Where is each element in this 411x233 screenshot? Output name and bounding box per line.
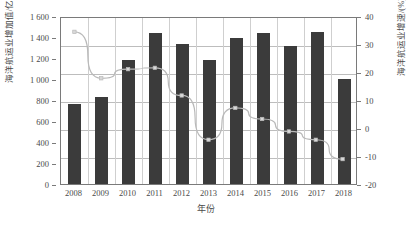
line-marker <box>73 30 76 33</box>
y-axis-right-tick-label: 40 <box>365 12 374 22</box>
y-axis-left-tick-label: 400 <box>36 138 49 148</box>
y-axis-right-tick-label: 20 <box>365 68 374 78</box>
y-axis-right-tick-label: -20 <box>365 180 376 190</box>
y-axis-left-tick-label: 200 <box>36 159 49 169</box>
line-marker <box>100 77 103 80</box>
y-axis-left-tick-label: 1 000 <box>30 75 49 85</box>
y-axis-right-tick-label: 10 <box>365 96 374 106</box>
y-axis-right-title: 海洋航运业增速/(%) <box>394 0 406 107</box>
x-axis-title: 年份 <box>0 202 411 215</box>
x-axis-tick-label: 2015 <box>254 188 271 198</box>
y-axis-left-tick-mark <box>52 122 56 123</box>
line-marker <box>314 138 317 141</box>
y-axis-left-tick-label: 0 <box>45 180 49 190</box>
y-axis-left-tick-mark <box>52 38 56 39</box>
y-axis-left-tick-mark <box>52 101 56 102</box>
y-axis-left-tick-mark <box>52 185 56 186</box>
line-marker <box>287 130 290 133</box>
line-marker <box>153 66 156 69</box>
y-axis-left-tick-mark <box>52 59 56 60</box>
x-axis-tick-label: 2011 <box>146 188 163 198</box>
y-axis-right-tick-mark <box>357 157 361 158</box>
line-series <box>61 18 356 184</box>
y-axis-left-tick-label: 800 <box>36 96 49 106</box>
y-axis-left-tick-label: 1 200 <box>30 54 49 64</box>
x-axis-ticks: 2008200920102011201220132014201520162017… <box>60 188 357 202</box>
line-marker <box>234 106 237 109</box>
y-axis-left-tick-label: 600 <box>36 117 49 127</box>
y-axis-right-tick-label: 30 <box>365 40 374 50</box>
x-axis-tick-label: 2016 <box>281 188 298 198</box>
y-axis-left-tick-mark <box>52 80 56 81</box>
x-axis-tick-label: 2009 <box>92 188 109 198</box>
y-axis-left-tick-label: 1 600 <box>30 12 49 22</box>
y-axis-left-tick-mark <box>52 164 56 165</box>
x-axis-tick-label: 2018 <box>335 188 352 198</box>
y-axis-right-tick-mark <box>357 129 361 130</box>
y-axis-right-tick-mark <box>357 45 361 46</box>
line-marker <box>126 68 129 71</box>
x-axis-tick-label: 2014 <box>227 188 244 198</box>
y-axis-left-ticks: 02004006008001 0001 2001 4001 600 <box>0 17 56 185</box>
x-axis-tick-label: 2017 <box>308 188 325 198</box>
plot-area <box>60 17 357 185</box>
y-axis-right-tick-mark <box>357 101 361 102</box>
x-axis-tick-label: 2008 <box>65 188 82 198</box>
x-axis-tick-label: 2012 <box>173 188 190 198</box>
y-axis-right-tick-mark <box>357 73 361 74</box>
chart-container: 海洋航运业增加值/亿元 02004006008001 0001 2001 400… <box>0 0 411 233</box>
y-axis-left-tick-mark <box>52 17 56 18</box>
y-axis-right-tick-label: 0 <box>365 124 369 134</box>
x-axis-tick-label: 2010 <box>119 188 136 198</box>
line-marker <box>260 117 263 120</box>
line-marker <box>180 94 183 97</box>
y-axis-left-tick-mark <box>52 143 56 144</box>
y-axis-left-tick-label: 1 400 <box>30 33 49 43</box>
y-axis-right-tick-label: -10 <box>365 152 376 162</box>
y-axis-right-tick-mark <box>357 185 361 186</box>
y-axis-right-tick-mark <box>357 17 361 18</box>
line-marker <box>341 157 344 160</box>
x-axis-tick-label: 2013 <box>200 188 217 198</box>
line-marker <box>207 138 210 141</box>
